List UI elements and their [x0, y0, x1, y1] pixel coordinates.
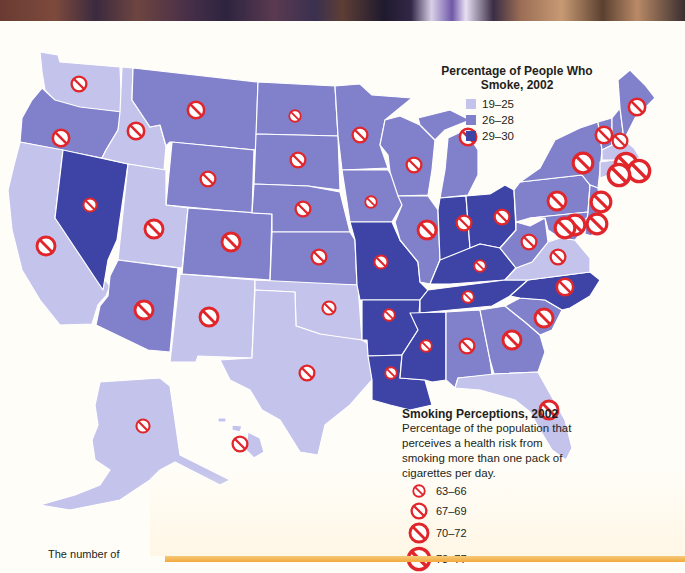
no-smoking-icon-wy: [201, 172, 216, 187]
no-smoking-icon-al: [460, 339, 475, 354]
no-smoking-icon-de: [587, 214, 607, 234]
no-smoking-icon-co: [222, 233, 240, 251]
no-smoking-icon-sd: [291, 153, 306, 168]
no-smoking-icon-nj: [591, 192, 611, 212]
perception-label-3: 70–72: [436, 527, 467, 539]
no-smoking-icon-va: [551, 250, 566, 265]
no-smoking-icon-mn: [353, 128, 368, 143]
no-smoking-icon-nv: [83, 198, 96, 211]
no-smoking-icon-nc: [557, 279, 573, 295]
no-smoking-icon-mt: [188, 102, 204, 118]
no-smoking-icon: [402, 484, 436, 498]
no-smoking-icon-in: [457, 216, 472, 231]
perceptions-legend-description: Percentage of the population that percei…: [402, 421, 580, 481]
no-smoking-icon-ms: [420, 340, 431, 351]
legend-item-low: 19–25: [466, 96, 602, 112]
no-smoking-icon: [402, 522, 436, 544]
no-smoking-icon-az: [135, 301, 153, 319]
state-hi-big: [246, 432, 264, 458]
no-smoking-icon-wv: [522, 235, 537, 250]
no-smoking-icon-dc: [555, 218, 575, 238]
perception-item-1: 63–66: [402, 481, 602, 501]
no-smoking-icon-nd: [289, 110, 300, 121]
smoking-legend-title: Percentage of People Who Smoke, 2002: [432, 64, 602, 92]
no-smoking-icon-sc: [535, 309, 553, 327]
legend-item-high: 29–30: [466, 128, 602, 144]
no-smoking-icon-ga: [503, 331, 521, 349]
no-smoking-icon-ar: [383, 309, 394, 320]
legend-label-high: 29–30: [482, 130, 514, 142]
footer-caption: The number of: [48, 548, 120, 560]
no-smoking-icon-ny: [573, 153, 593, 173]
no-smoking-icon-ok: [322, 301, 335, 314]
perception-item-3: 70–72: [402, 521, 602, 545]
no-smoking-icon-tn: [462, 291, 473, 302]
legend-item-mid: 26–28: [466, 112, 602, 128]
no-smoking-icon-la: [385, 367, 396, 378]
state-hi-maui: [232, 425, 242, 432]
no-smoking-icon-ks: [312, 250, 327, 265]
no-smoking-icon-wa: [72, 77, 87, 92]
no-smoking-icon-id: [128, 123, 144, 139]
no-smoking-icon-ut: [145, 220, 163, 238]
no-smoking-icon-or: [53, 130, 69, 146]
legend-label-mid: 26–28: [482, 114, 514, 126]
perceptions-legend-title: Smoking Perceptions, 2002: [402, 407, 602, 421]
no-smoking-icon-ky: [474, 260, 485, 271]
no-smoking-icon-pa: [548, 192, 566, 210]
no-smoking-icon-tx: [300, 366, 315, 381]
no-smoking-icon-oh: [495, 210, 510, 225]
perceptions-legend: Smoking Perceptions, 2002 Percentage of …: [402, 407, 602, 573]
swatch-high: [466, 131, 476, 141]
perception-label-2: 67–69: [436, 505, 467, 517]
no-smoking-icon: [402, 502, 436, 520]
no-smoking-icon-ne: [296, 202, 311, 217]
perception-label-1: 63–66: [436, 485, 467, 497]
no-smoking-icon-ak: [136, 419, 149, 432]
no-smoking-icon-mo: [374, 255, 387, 268]
swatch-mid: [466, 115, 476, 125]
smoking-rate-legend: Percentage of People Who Smoke, 2002 19–…: [432, 64, 602, 144]
no-smoking-icon-hi: [233, 437, 248, 452]
no-smoking-icon-ca: [37, 237, 55, 255]
no-smoking-icon-wi: [407, 158, 422, 173]
swatch-low: [466, 99, 476, 109]
perception-item-2: 67–69: [402, 501, 602, 521]
state-hi-oahu: [218, 418, 226, 422]
photo-banner: [0, 0, 685, 21]
no-smoking-icon-me: [629, 99, 645, 115]
no-smoking-icon-il: [418, 221, 436, 239]
state-nd: [256, 82, 338, 136]
no-smoking-icon-ct: [608, 164, 629, 185]
legend-label-low: 19–25: [482, 98, 514, 110]
no-smoking-icon-ia: [365, 196, 376, 207]
no-smoking-icon-nh: [613, 134, 628, 149]
no-smoking-icon-nm: [200, 308, 218, 326]
no-smoking-icon-ri: [628, 160, 649, 181]
footer-accent-bar: [165, 556, 685, 562]
